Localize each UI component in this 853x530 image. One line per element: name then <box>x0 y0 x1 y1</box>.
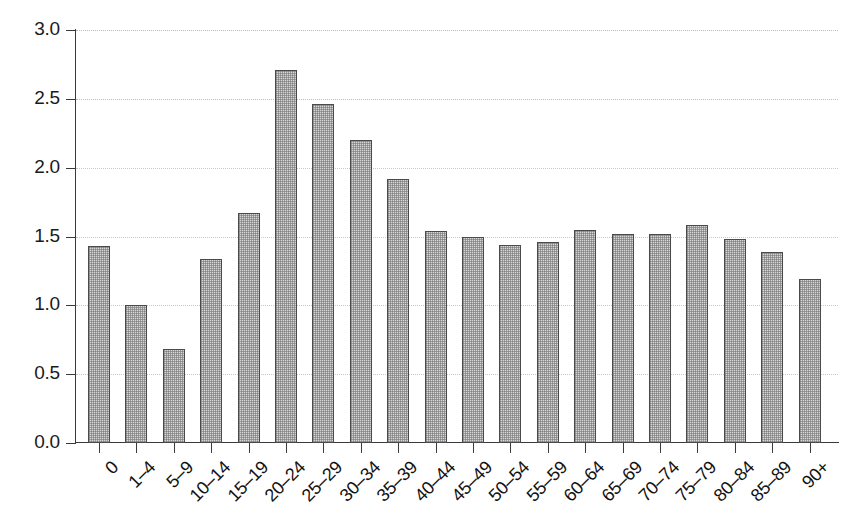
x-tick-75–79 <box>697 443 698 453</box>
bar-30–34 <box>350 140 372 443</box>
y-tick-label-3.0: 3.0 <box>34 18 60 40</box>
y-tick-0.5 <box>66 374 75 375</box>
gridline-y-2.0 <box>76 168 838 169</box>
bar-45–49 <box>462 237 484 444</box>
y-tick-label-2.5: 2.5 <box>34 87 60 109</box>
x-tick-35–39 <box>398 443 399 453</box>
bar-40–44 <box>425 231 447 443</box>
x-tick-25–29 <box>323 443 324 453</box>
x-tick-90+ <box>810 443 811 453</box>
bar-20–24 <box>275 70 297 443</box>
bar-15–19 <box>238 213 260 443</box>
x-tick-40–44 <box>436 443 437 453</box>
x-tick-10–14 <box>211 443 212 453</box>
y-tick-0.0 <box>66 443 75 444</box>
y-tick-label-1.0: 1.0 <box>34 293 60 315</box>
bar-70–74 <box>649 234 671 443</box>
y-tick-1.0 <box>66 305 75 306</box>
x-tick-5–9 <box>174 443 175 453</box>
x-tick-30–34 <box>361 443 362 453</box>
y-tick-label-0.5: 0.5 <box>34 362 60 384</box>
x-tick-0 <box>99 443 100 453</box>
y-tick-2.0 <box>66 168 75 169</box>
bar-60–64 <box>574 230 596 443</box>
bar-80–84 <box>724 239 746 443</box>
bar-0 <box>88 246 110 443</box>
y-tick-label-2.0: 2.0 <box>34 156 60 178</box>
y-tick-2.5 <box>66 99 75 100</box>
y-tick-label-1.5: 1.5 <box>34 225 60 247</box>
bar-75–79 <box>686 225 708 443</box>
bar-35–39 <box>387 179 409 443</box>
x-tick-55–59 <box>548 443 549 453</box>
x-tick-45–49 <box>473 443 474 453</box>
x-tick-65–69 <box>623 443 624 453</box>
x-tick-60–64 <box>585 443 586 453</box>
y-tick-3.0 <box>66 30 75 31</box>
bar-5–9 <box>163 349 185 443</box>
bar-10–14 <box>200 259 222 443</box>
bar-25–29 <box>312 104 334 443</box>
x-tick-50–54 <box>510 443 511 453</box>
x-tick-70–74 <box>660 443 661 453</box>
y-tick-label-0.0: 0.0 <box>34 431 60 453</box>
x-tick-1–4 <box>136 443 137 453</box>
gridline-y-3.0 <box>76 30 838 31</box>
gridline-y-1.5 <box>76 237 838 238</box>
bar-1–4 <box>125 305 147 443</box>
x-tick-85–89 <box>772 443 773 453</box>
x-tick-15–19 <box>249 443 250 453</box>
bar-chart: 0.00.51.01.52.02.53.0 01–45–910–1415–192… <box>0 0 853 530</box>
x-tick-20–24 <box>286 443 287 453</box>
bar-50–54 <box>499 245 521 443</box>
bar-90+ <box>799 279 821 443</box>
bar-65–69 <box>612 234 634 443</box>
bar-85–89 <box>761 252 783 443</box>
y-tick-1.5 <box>66 237 75 238</box>
bar-55–59 <box>537 242 559 443</box>
gridline-y-2.5 <box>76 99 838 100</box>
x-tick-80–84 <box>735 443 736 453</box>
